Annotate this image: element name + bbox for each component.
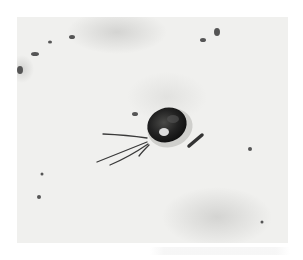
- faint-caption: [150, 247, 290, 255]
- micrograph: [17, 17, 288, 243]
- micrograph-frame: [17, 17, 288, 243]
- flagella: [97, 134, 149, 165]
- rod-particle: [189, 135, 202, 146]
- cell-vacuole: [159, 128, 169, 136]
- background-smudge: [162, 187, 272, 243]
- background-smudge: [67, 17, 167, 54]
- cell-texture: [167, 115, 179, 123]
